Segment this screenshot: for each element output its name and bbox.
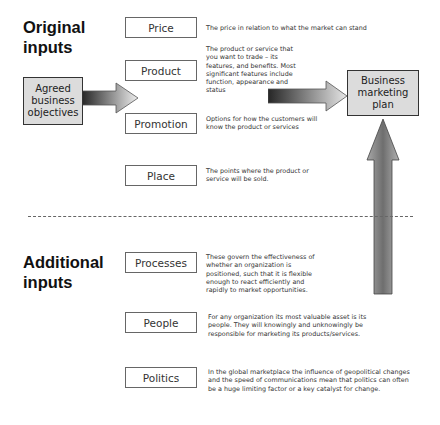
plan-line: Business bbox=[358, 75, 409, 87]
plan-line: marketing bbox=[358, 87, 409, 99]
input-label: Price bbox=[148, 22, 174, 34]
input-description-processes: These govern the effectiveness of whethe… bbox=[206, 253, 326, 294]
input-box-place: Place bbox=[125, 165, 197, 186]
input-label: Place bbox=[147, 170, 175, 182]
input-box-price: Price bbox=[125, 17, 197, 38]
input-box-politics: Politics bbox=[125, 367, 197, 388]
input-description-place: The points where the product or service … bbox=[206, 167, 316, 184]
plan-line: plan bbox=[358, 99, 409, 111]
heading-line: inputs bbox=[23, 272, 104, 292]
input-label: Promotion bbox=[134, 118, 187, 130]
input-description-politics: In the global marketplace the influence … bbox=[208, 368, 413, 393]
heading-line: Additional bbox=[23, 252, 104, 272]
heading-line: Original bbox=[23, 17, 85, 37]
business-marketing-plan-box: Business marketing plan bbox=[347, 70, 419, 116]
input-label: Processes bbox=[135, 257, 187, 269]
heading-original-inputs: Original inputs bbox=[23, 17, 85, 57]
objectives-line: Agreed bbox=[28, 83, 79, 95]
input-label: Politics bbox=[143, 372, 180, 384]
input-label: Product bbox=[141, 65, 181, 77]
right-arrow-icon bbox=[80, 82, 140, 114]
up-arrow-icon bbox=[365, 118, 401, 296]
heading-additional-inputs: Additional inputs bbox=[23, 252, 104, 292]
input-box-processes: Processes bbox=[125, 252, 197, 273]
agreed-business-objectives-box: Agreed business objectives bbox=[23, 77, 83, 125]
input-description-people: For any organization its most valuable a… bbox=[208, 313, 373, 338]
input-box-product: Product bbox=[125, 60, 197, 81]
input-description-price: The price in relation to what the market… bbox=[206, 24, 406, 32]
input-box-people: People bbox=[125, 312, 197, 333]
objectives-line: objectives bbox=[28, 107, 79, 119]
input-label: People bbox=[144, 317, 179, 329]
section-divider bbox=[28, 216, 413, 217]
heading-line: inputs bbox=[23, 37, 85, 57]
input-description-product: The product or service that you want to … bbox=[206, 45, 306, 95]
input-description-promotion: Options for how the customers will know … bbox=[206, 115, 321, 132]
objectives-line: business bbox=[28, 95, 79, 107]
input-box-promotion: Promotion bbox=[125, 113, 197, 134]
